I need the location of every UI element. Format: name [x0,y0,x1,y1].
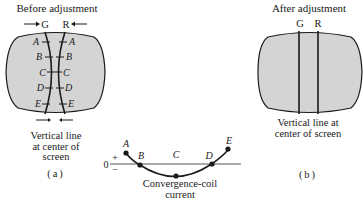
label-a-left: A [32,36,40,47]
panel-b-tag: (b) [299,169,317,181]
panel-a: Before adjustment G R A B C D E [6,2,105,180]
arrow-right-bottom-icon [36,118,51,122]
graph-label-b: B [138,150,144,161]
graph-caption-2: current [165,189,195,200]
panel-b-caption-1: Vertical line at [277,117,338,128]
panel-b-label-g: G [296,18,304,29]
graph-caption-1: Convergence-coil [143,178,218,189]
graph-label-c: C [173,149,180,160]
panel-b-caption-2: center of screen [275,128,342,139]
point-b [137,162,142,167]
arrow-left-icon [71,22,87,27]
label-b-right: B [66,51,72,62]
panel-b-label-r: R [314,18,321,29]
point-d [209,161,214,166]
panel-a-label-g: G [41,19,49,30]
label-e-right: E [67,98,74,109]
panel-a-caption-1: Vertical line [30,130,81,141]
screen-b [258,33,362,113]
label-a-right: A [68,36,76,47]
plus-label: + [112,152,118,163]
panel-a-tag: (a) [47,168,65,180]
point-a [123,150,128,155]
label-c-left: C [39,67,46,78]
zero-label: 0 [104,159,109,170]
label-d-right: D [64,82,73,93]
current-graph: 0 + − A B C D E Convergence-coil current [104,135,242,200]
panel-a-title: Before adjustment [17,2,98,14]
arrow-left-bottom-icon [59,118,73,122]
arrow-right-icon [24,22,40,27]
panel-a-caption-3: screen [43,151,71,162]
panel-b: After adjustment G R Vertical line at ce… [258,2,362,181]
minus-label: − [112,164,118,175]
label-d-left: D [36,82,45,93]
panel-a-label-r: R [62,19,69,30]
graph-label-e: E [225,135,232,146]
graph-label-d: D [204,150,213,161]
graph-label-a: A [122,138,130,149]
convergence-diagram: Before adjustment G R A B C D E [0,0,363,218]
label-e-left: E [34,98,41,109]
label-b-left: B [36,51,42,62]
label-c-right: C [63,67,70,78]
point-e [225,146,230,151]
panel-b-title: After adjustment [272,2,346,14]
